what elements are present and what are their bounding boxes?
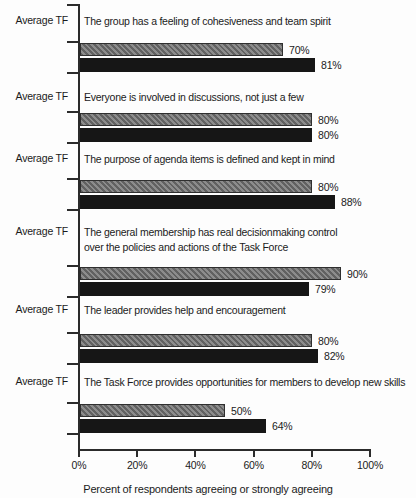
row-label: Average TF <box>0 152 68 164</box>
y-axis-tick <box>67 111 79 113</box>
statement-text: The purpose of agenda items is defined a… <box>84 152 335 167</box>
statement-text: The general membership has real decision… <box>84 225 337 255</box>
statement-line: The leader provides help and encourageme… <box>84 303 285 318</box>
bar-black <box>80 128 312 142</box>
x-axis-tick-label: 40% <box>173 459 217 471</box>
statement-line: The Task Force provides opportunities fo… <box>84 375 405 390</box>
x-axis-label: Percent of respondents agreeing or stron… <box>58 483 358 495</box>
y-axis-tick <box>67 332 79 334</box>
y-axis-tick <box>67 363 79 365</box>
row-label: Average TF <box>0 375 68 387</box>
bar-value-label: 79% <box>315 283 335 295</box>
x-axis-tick <box>194 451 196 457</box>
y-axis-tick <box>67 72 79 74</box>
y-axis-tick <box>67 142 79 144</box>
x-axis-tick <box>311 451 313 457</box>
row-label: Average TF <box>0 225 68 237</box>
bar-value-label: 80% <box>318 181 338 193</box>
bar-gray <box>80 404 225 417</box>
row-label: Average TF <box>0 303 68 315</box>
bar-value-label: 80% <box>318 114 338 126</box>
y-axis-tick <box>67 402 79 404</box>
bar-gray <box>80 267 341 280</box>
y-axis-tick <box>67 178 79 180</box>
x-axis-line <box>78 449 371 451</box>
bar-value-label: 90% <box>347 268 367 280</box>
x-axis-tick-label: 100% <box>348 459 392 471</box>
bar-gray <box>80 113 312 126</box>
bar-value-label: 80% <box>318 335 338 347</box>
y-axis-tick <box>67 265 79 267</box>
x-axis-tick-label: 80% <box>290 459 334 471</box>
bar-gray <box>80 334 312 347</box>
statement-line: over the policies and actions of the Tas… <box>84 240 337 255</box>
x-axis-tick-label: 60% <box>232 459 276 471</box>
statement-text: Everyone is involved in discussions, not… <box>84 90 304 105</box>
y-axis-tick <box>67 209 79 211</box>
x-axis-tick <box>136 451 138 457</box>
y-axis-tick <box>67 41 79 43</box>
bar-black <box>80 349 318 363</box>
task-force-survey-bar-chart: Average TFThe group has a feeling of coh… <box>0 0 416 498</box>
bar-black <box>80 419 266 433</box>
row-label: Average TF <box>0 90 68 102</box>
bar-black <box>80 58 315 72</box>
bar-value-label: 80% <box>318 129 338 141</box>
statement-text: The leader provides help and encourageme… <box>84 303 285 318</box>
bar-value-label: 82% <box>324 350 344 362</box>
statement-line: Everyone is involved in discussions, not… <box>84 90 304 105</box>
y-axis-tick <box>67 296 79 298</box>
bar-value-label: 64% <box>272 420 292 432</box>
bar-value-label: 50% <box>231 405 251 417</box>
x-axis-tick-label: 0% <box>57 459 101 471</box>
bar-gray <box>80 43 283 56</box>
statement-text: The Task Force provides opportunities fo… <box>84 375 405 390</box>
bar-black <box>80 282 309 296</box>
x-axis-tick-label: 20% <box>115 459 159 471</box>
row-label: Average TF <box>0 14 68 26</box>
bar-value-label: 81% <box>321 59 341 71</box>
x-axis-tick <box>369 451 371 457</box>
y-axis-tick <box>67 433 79 435</box>
x-axis-tick <box>78 451 80 457</box>
statement-line: The group has a feeling of cohesiveness … <box>84 14 331 29</box>
statement-line: The purpose of agenda items is defined a… <box>84 152 335 167</box>
bar-value-label: 70% <box>289 44 309 56</box>
bar-gray <box>80 180 312 193</box>
bar-value-label: 88% <box>341 196 361 208</box>
statement-line: The general membership has real decision… <box>84 225 337 240</box>
statement-text: The group has a feeling of cohesiveness … <box>84 14 331 29</box>
bar-black <box>80 195 335 209</box>
x-axis-tick <box>253 451 255 457</box>
